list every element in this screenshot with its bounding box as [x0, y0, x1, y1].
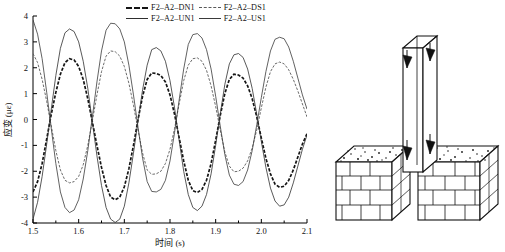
structure-diagram: [330, 0, 505, 252]
y-axis-label: 应变 (με): [2, 103, 13, 138]
legend-item-ds1[interactable]: F2–A2–DS1: [199, 2, 266, 13]
legend-swatch-ds1: [199, 7, 221, 8]
x-tick-label: 2.0: [256, 226, 267, 236]
plot-canvas: 43210-1-2-3-4 1.51.61.71.81.92.02.1 时间 (…: [0, 0, 330, 252]
y-tick-label: 4: [24, 11, 29, 21]
x-tick-label: 1.8: [165, 226, 176, 236]
y-axis: 43210-1-2-3-4: [21, 11, 37, 228]
legend-row-2: F2–A2–UN1 F2–A2–US1: [126, 13, 316, 24]
foundation-left-block: [336, 146, 410, 220]
y-tick-label: -3: [21, 192, 28, 202]
y-tick-label: 0: [24, 115, 28, 125]
legend: F2–A2–DN1 F2–A2–DS1 F2–A2–UN1 F2–A2–US1: [126, 2, 316, 24]
figure-root: 43210-1-2-3-4 1.51.61.71.81.92.02.1 时间 (…: [0, 0, 505, 252]
x-axis-label: 时间 (s): [155, 237, 185, 248]
x-tick-label: 1.9: [210, 226, 221, 236]
series-f2-a2-us1: [33, 20, 307, 213]
series-group: [33, 20, 307, 223]
legend-swatch-us1: [199, 18, 221, 19]
legend-item-dn1[interactable]: F2–A2–DN1: [126, 2, 195, 13]
axis-frame: [33, 16, 307, 223]
series-f2-a2-un1: [33, 29, 307, 223]
legend-swatch-dn1: [126, 7, 148, 9]
foundation-right-front: [418, 162, 480, 220]
legend-label-ds1: F2–A2–DS1: [224, 2, 266, 13]
legend-label-un1: F2–A2–UN1: [151, 13, 195, 24]
y-tick-label: 1: [24, 89, 28, 99]
legend-item-un1[interactable]: F2–A2–UN1: [126, 13, 195, 24]
strain-time-chart: 43210-1-2-3-4 1.51.61.71.81.92.02.1 时间 (…: [0, 0, 330, 252]
y-tick-label: -1: [21, 140, 28, 150]
legend-label-dn1: F2–A2–DN1: [151, 2, 195, 13]
legend-item-us1[interactable]: F2–A2–US1: [199, 13, 266, 24]
y-tick-label: 2: [24, 63, 28, 73]
x-tick-label: 1.7: [119, 226, 130, 236]
legend-label-us1: F2–A2–US1: [224, 13, 266, 24]
diagram-canvas: [330, 0, 505, 252]
legend-swatch-un1: [126, 18, 148, 19]
x-tick-label: 1.6: [73, 226, 84, 236]
y-tick-label: -2: [21, 166, 28, 176]
x-axis: 1.51.61.71.81.92.02.1: [28, 219, 313, 236]
x-tick-label: 2.1: [302, 226, 313, 236]
x-tick-label: 1.5: [28, 226, 39, 236]
foundation-left-front: [336, 162, 392, 220]
legend-row-1: F2–A2–DN1 F2–A2–DS1: [126, 2, 316, 13]
y-tick-label: 3: [24, 37, 28, 47]
